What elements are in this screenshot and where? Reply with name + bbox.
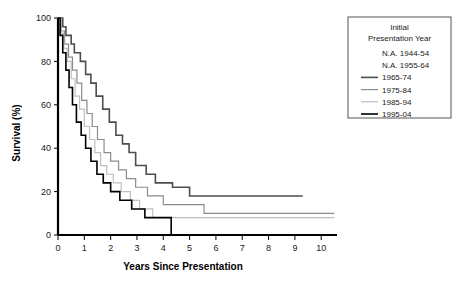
x-tick-label: 2	[108, 243, 113, 253]
survival-curve	[58, 18, 334, 218]
y-tick-label: 20	[41, 187, 51, 197]
x-tick-label: 5	[187, 243, 192, 253]
y-tick-label: 40	[41, 143, 51, 153]
x-axis-title: Years Since Presentation	[123, 261, 243, 272]
x-tick-label: 6	[213, 243, 218, 253]
x-tick-label: 7	[240, 243, 245, 253]
x-tick-label: 1	[82, 243, 87, 253]
y-tick-label: 100	[36, 13, 51, 23]
legend-entry-label: N.A. 1955-64	[382, 61, 430, 70]
legend-entry-label: 1985-94	[382, 98, 412, 107]
chart-canvas: 020406080100 012345678910 Years Since Pr…	[0, 0, 459, 282]
legend-title-line2: Presentation Year	[368, 34, 431, 43]
survival-chart-figure: 020406080100 012345678910 Years Since Pr…	[0, 0, 459, 282]
x-tick-label: 4	[161, 243, 166, 253]
y-tick-label: 0	[46, 230, 51, 240]
x-tick-label: 8	[266, 243, 271, 253]
chart-legend: InitialPresentation YearN.A. 1944-54N.A.…	[348, 17, 451, 119]
legend-title-line1: Initial	[390, 23, 409, 32]
legend-entry-label: 1975-84	[382, 86, 412, 95]
survival-curve	[58, 18, 303, 196]
x-axis: 012345678910	[55, 235, 337, 253]
y-tick-label: 80	[41, 57, 51, 67]
y-axis: 020406080100	[36, 13, 58, 240]
legend-entry-label: N.A. 1944-54	[382, 49, 430, 58]
y-tick-label: 60	[41, 100, 51, 110]
x-tick-label: 3	[134, 243, 139, 253]
legend-entry-label: 1965-74	[382, 73, 412, 82]
y-axis-title: Survival (%)	[11, 104, 22, 161]
x-tick-label: 0	[55, 243, 60, 253]
x-tick-label: 10	[316, 243, 326, 253]
legend-entry-label: 1995-04	[382, 110, 412, 119]
survival-curve	[58, 18, 334, 213]
x-tick-label: 9	[292, 243, 297, 253]
plot-area	[58, 18, 334, 235]
